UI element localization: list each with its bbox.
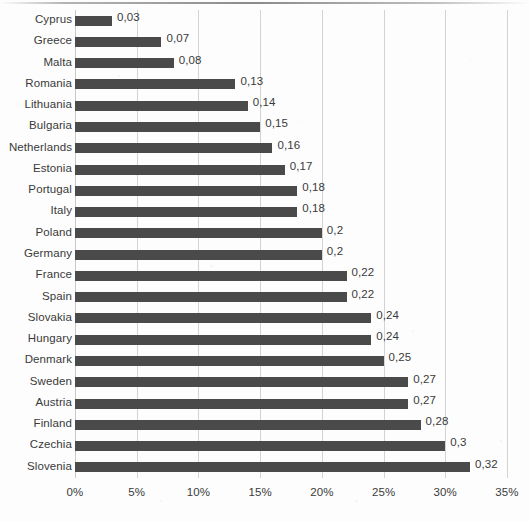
bar-malta (75, 58, 174, 68)
bar-row: 0,03 (75, 10, 507, 31)
bar-value-label: 0,27 (413, 373, 436, 385)
bar-value-label: 0,28 (426, 415, 449, 427)
category-label-germany: Germany (0, 247, 72, 259)
category-label-netherlands: Netherlands (0, 141, 72, 153)
category-label-romania: Romania (0, 77, 72, 89)
bar-bulgaria (75, 122, 260, 132)
category-label-italy: Italy (0, 204, 72, 216)
x-tick-label-15%: 15% (248, 486, 271, 498)
category-label-france: France (0, 268, 72, 280)
bar-czechia (75, 441, 445, 451)
bar-chart: CyprusGreeceMaltaRomaniaLithuaniaBulgari… (0, 0, 530, 522)
bar-slovenia (75, 462, 470, 472)
bar-row: 0,2 (75, 223, 507, 244)
bars-layer: 0,030,070,080,130,140,150,160,170,180,18… (75, 10, 507, 478)
x-tick-label-25%: 25% (372, 486, 395, 498)
category-label-hungary: Hungary (0, 332, 72, 344)
scan-speck (470, 60, 472, 61)
bar-portugal (75, 186, 297, 196)
bar-value-label: 0,32 (475, 458, 498, 470)
bar-value-label: 0,03 (117, 11, 140, 23)
bar-value-label: 0,13 (240, 75, 263, 87)
bar-italy (75, 207, 297, 217)
bar-greece (75, 37, 161, 47)
bar-row: 0,27 (75, 372, 507, 393)
bar-row: 0,28 (75, 414, 507, 435)
bar-value-label: 0,25 (389, 351, 412, 363)
scan-speck (355, 500, 358, 502)
category-label-cyprus: Cyprus (0, 13, 72, 25)
bar-value-label: 0,16 (277, 139, 300, 151)
bar-row: 0,22 (75, 265, 507, 286)
scan-speck (300, 120, 302, 121)
bar-romania (75, 79, 235, 89)
bar-row: 0,16 (75, 138, 507, 159)
x-tick-label-30%: 30% (434, 486, 457, 498)
bar-value-label: 0,22 (352, 266, 375, 278)
scan-speck (160, 500, 162, 502)
bar-row: 0,27 (75, 393, 507, 414)
bar-value-label: 0,27 (413, 394, 436, 406)
bar-row: 0,32 (75, 457, 507, 478)
category-label-poland: Poland (0, 226, 72, 238)
scan-speck (500, 440, 502, 442)
bar-value-label: 0,22 (352, 288, 375, 300)
bar-row: 0,14 (75, 95, 507, 116)
bar-estonia (75, 165, 285, 175)
bar-row: 0,15 (75, 116, 507, 137)
bar-value-label: 0,07 (166, 32, 189, 44)
category-label-slovakia: Slovakia (0, 311, 72, 323)
bar-row: 0,2 (75, 244, 507, 265)
plot-area: 0,030,070,080,130,140,150,160,170,180,18… (75, 10, 507, 478)
bar-value-label: 0,17 (290, 160, 313, 172)
bar-denmark (75, 356, 384, 366)
x-tick-label-5%: 5% (128, 486, 145, 498)
bar-row: 0,24 (75, 329, 507, 350)
bar-row: 0,17 (75, 159, 507, 180)
x-tick-label-0%: 0% (67, 486, 84, 498)
bar-row: 0,08 (75, 53, 507, 74)
scan-speck (210, 265, 213, 267)
bar-row: 0,18 (75, 201, 507, 222)
bar-hungary (75, 335, 371, 345)
bar-row: 0,13 (75, 74, 507, 95)
category-label-finland: Finland (0, 417, 72, 429)
bar-row: 0,07 (75, 31, 507, 52)
bar-value-label: 0,2 (327, 245, 343, 257)
bar-austria (75, 399, 408, 409)
bar-value-label: 0,18 (302, 202, 325, 214)
bar-lithuania (75, 101, 248, 111)
bar-value-label: 0,14 (253, 96, 276, 108)
bar-row: 0,24 (75, 308, 507, 329)
scan-speck (255, 20, 257, 21)
bar-france (75, 271, 347, 281)
bar-spain (75, 292, 347, 302)
category-label-malta: Malta (0, 56, 72, 68)
x-tick-label-10%: 10% (187, 486, 210, 498)
bar-finland (75, 420, 421, 430)
category-label-slovenia: Slovenia (0, 460, 72, 472)
scan-speck (90, 405, 92, 407)
category-label-denmark: Denmark (0, 353, 72, 365)
gridline-35% (507, 10, 508, 478)
bar-value-label: 0,18 (302, 181, 325, 193)
category-label-bulgaria: Bulgaria (0, 119, 72, 131)
x-axis-tick-labels: 0%5%10%15%20%25%30%35% (0, 486, 530, 506)
category-axis-labels: CyprusGreeceMaltaRomaniaLithuaniaBulgari… (0, 10, 72, 478)
bar-netherlands (75, 143, 272, 153)
category-label-portugal: Portugal (0, 183, 72, 195)
category-label-spain: Spain (0, 290, 72, 302)
scan-speck (118, 75, 120, 77)
category-label-greece: Greece (0, 34, 72, 46)
bar-row: 0,3 (75, 435, 507, 456)
x-tick-label-35%: 35% (495, 486, 518, 498)
bar-row: 0,22 (75, 287, 507, 308)
category-label-austria: Austria (0, 396, 72, 408)
bar-value-label: 0,15 (265, 117, 288, 129)
bar-germany (75, 250, 322, 260)
bar-row: 0,25 (75, 350, 507, 371)
bar-cyprus (75, 16, 112, 26)
bar-value-label: 0,2 (327, 224, 343, 236)
bar-value-label: 0,24 (376, 330, 399, 342)
bar-poland (75, 228, 322, 238)
